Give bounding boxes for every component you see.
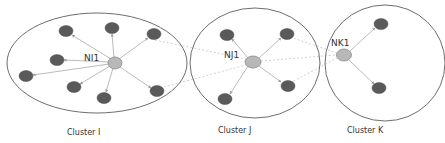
member-node: [150, 86, 164, 97]
cluster-k: NK1: [325, 5, 445, 121]
cluster-label: Cluster I: [67, 128, 100, 137]
cluster-diagram: NI1 NJ1 NK1 Cluster I Cluster J Cluster …: [0, 0, 445, 143]
cluster-label: Cluster J: [218, 126, 251, 135]
inter-edge: [290, 58, 337, 83]
inter-edge: [160, 65, 246, 88]
member-node: [67, 82, 81, 93]
member-node: [97, 93, 111, 104]
member-node: [50, 55, 64, 66]
cluster-head-node: [245, 56, 261, 68]
cluster-head-label: NJ1: [224, 50, 239, 60]
member-node: [147, 29, 161, 40]
cluster-head-node: [337, 49, 352, 61]
cluster-head-node: [108, 57, 122, 69]
cluster-label: Cluster K: [347, 126, 384, 135]
member-node: [280, 29, 294, 40]
member-node: [218, 94, 232, 105]
member-node: [374, 19, 388, 30]
member-node: [105, 23, 119, 34]
cluster-i: NI1: [7, 13, 187, 113]
member-node: [59, 26, 73, 37]
member-node: [372, 83, 386, 94]
member-node: [281, 81, 295, 92]
member-node: [19, 71, 33, 82]
cluster-head-label: NI1: [84, 53, 99, 63]
member-node: [220, 30, 234, 41]
cluster-j: NJ1: [190, 8, 320, 118]
cluster-i-edges: [33, 34, 151, 92]
cluster-k-edges: [349, 28, 375, 84]
cluster-head-label: NK1: [331, 38, 349, 48]
